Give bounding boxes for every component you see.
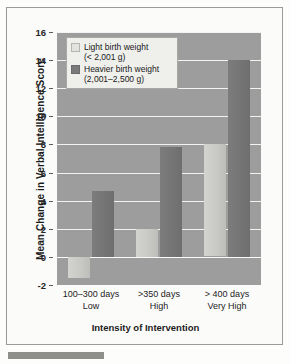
bar-series0-group1 — [136, 229, 158, 257]
x-category-label-1: >350 daysHigh — [125, 289, 193, 312]
y-axis-ticks: 1614121086420-2 — [20, 32, 53, 285]
y-tick-label-12: 12 — [35, 83, 46, 94]
caption-rule — [8, 352, 104, 359]
y-tick-mark--2 — [49, 285, 53, 286]
bar-series0-group0 — [68, 257, 90, 278]
x-category-label-2: > 400 daysVery High — [193, 289, 261, 312]
dark-swatch-icon — [71, 65, 80, 74]
legend: Light birth weight (< 2,001 g) Heavier b… — [66, 37, 178, 89]
y-tick-label-4: 4 — [41, 195, 46, 206]
legend-label-light-line2: (< 2,001 g) — [84, 52, 125, 62]
x-axis-categories: 100–300 daysLow>350 daysHigh> 400 daysVe… — [57, 289, 261, 315]
y-tick-label--2: -2 — [38, 280, 46, 291]
y-tick-label-0: 0 — [41, 251, 46, 262]
gridline-16 — [57, 32, 261, 33]
y-tick-mark-0 — [49, 257, 53, 258]
x-axis-title: Intensity of Intervention — [0, 322, 291, 333]
y-tick-mark-8 — [49, 144, 53, 145]
legend-label-heavier-line1: Heavier birth weight — [84, 64, 159, 74]
legend-item-heavier: Heavier birth weight (2,001–2,500 g) — [71, 64, 173, 84]
x-category-line1-1: >350 days — [138, 289, 180, 299]
x-category-line2-0: Low — [57, 301, 125, 313]
y-tick-label-10: 10 — [35, 111, 46, 122]
y-tick-mark-16 — [49, 32, 53, 33]
legend-label-light-line1: Light birth weight — [84, 42, 148, 52]
legend-item-light: Light birth weight (< 2,001 g) — [71, 42, 173, 62]
legend-label-heavier: Heavier birth weight (2,001–2,500 g) — [84, 64, 159, 84]
legend-label-light: Light birth weight (< 2,001 g) — [84, 42, 148, 62]
y-tick-label-6: 6 — [41, 167, 46, 178]
y-tick-mark-6 — [49, 173, 53, 174]
legend-label-heavier-line2: (2,001–2,500 g) — [84, 74, 144, 84]
light-swatch-icon — [71, 43, 80, 52]
y-tick-mark-10 — [49, 116, 53, 117]
y-tick-mark-12 — [49, 88, 53, 89]
y-tick-mark-2 — [49, 229, 53, 230]
bar-series1-group1 — [160, 147, 182, 257]
figure-root: Mean Change in Verbal Intelligence Score… — [0, 0, 291, 364]
bar-series0-group2 — [204, 144, 226, 256]
y-tick-mark-14 — [49, 60, 53, 61]
bar-series1-group2 — [228, 60, 250, 257]
x-category-line1-2: > 400 days — [205, 289, 249, 299]
y-tick-label-16: 16 — [35, 27, 46, 38]
y-tick-mark-4 — [49, 201, 53, 202]
x-category-line2-1: High — [125, 301, 193, 313]
x-category-line1-0: 100–300 days — [63, 289, 120, 299]
y-tick-label-8: 8 — [41, 139, 46, 150]
y-tick-label-14: 14 — [35, 55, 46, 66]
x-category-label-0: 100–300 daysLow — [57, 289, 125, 312]
x-category-line2-2: Very High — [193, 301, 261, 313]
bar-series1-group0 — [92, 191, 114, 257]
y-tick-label-2: 2 — [41, 223, 46, 234]
